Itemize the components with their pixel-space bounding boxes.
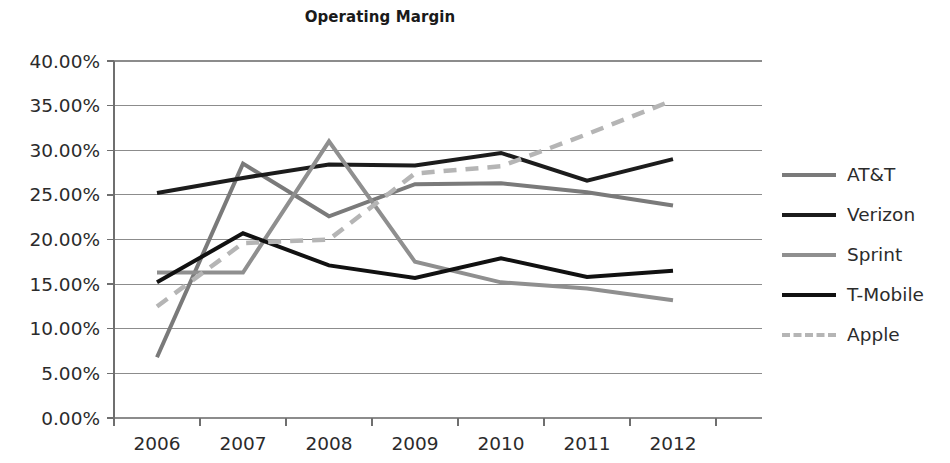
legend-item-t-mobile[interactable]: T-Mobile bbox=[782, 275, 950, 315]
series-group bbox=[157, 100, 673, 357]
legend-swatch-icon bbox=[782, 333, 836, 337]
x-tick-label: 2012 bbox=[649, 433, 696, 454]
y-tick-label: 30.00% bbox=[29, 140, 100, 161]
legend-item-apple[interactable]: Apple bbox=[782, 315, 950, 355]
legend-item-sprint[interactable]: Sprint bbox=[782, 235, 950, 275]
x-tick-label: 2011 bbox=[563, 433, 610, 454]
legend-swatch-icon bbox=[782, 253, 836, 257]
x-tick-label: 2009 bbox=[391, 433, 438, 454]
x-tick-label: 2008 bbox=[305, 433, 352, 454]
legend-swatch-icon bbox=[782, 173, 836, 177]
series-line-t-mobile bbox=[157, 233, 673, 282]
y-tick-label: 5.00% bbox=[41, 363, 100, 384]
legend-label: Sprint bbox=[847, 246, 902, 265]
legend-label: AT&T bbox=[847, 166, 895, 185]
legend-label: Verizon bbox=[847, 206, 915, 225]
chart-legend: AT&TVerizonSprintT-MobileApple bbox=[782, 155, 950, 355]
y-tick-label: 25.00% bbox=[29, 184, 100, 205]
legend-label: Apple bbox=[847, 326, 900, 345]
y-tick-label: 20.00% bbox=[29, 229, 100, 250]
y-tick-label: 40.00% bbox=[29, 51, 100, 72]
y-tick-labels-group: 40.00%35.00%30.00%25.00%20.00%15.00%10.0… bbox=[29, 51, 100, 429]
x-tick-label: 2006 bbox=[133, 433, 180, 454]
legend-item-verizon[interactable]: Verizon bbox=[782, 195, 950, 235]
y-tick-label: 15.00% bbox=[29, 274, 100, 295]
y-axis-group bbox=[107, 61, 114, 418]
y-tick-label: 10.00% bbox=[29, 318, 100, 339]
legend-swatch-icon bbox=[782, 293, 836, 297]
x-tick-label: 2007 bbox=[219, 433, 266, 454]
x-axis-group bbox=[114, 418, 716, 426]
y-tick-label: 0.00% bbox=[41, 408, 100, 429]
chart-container: Operating Margin 40.00%35.00%30.00%25.00… bbox=[0, 0, 950, 463]
legend-label: T-Mobile bbox=[847, 286, 924, 305]
x-tick-labels-group: 2006200720082009201020112012 bbox=[133, 433, 696, 454]
x-tick-label: 2010 bbox=[477, 433, 524, 454]
legend-swatch-icon bbox=[782, 213, 836, 217]
y-tick-label: 35.00% bbox=[29, 95, 100, 116]
legend-item-at-t[interactable]: AT&T bbox=[782, 155, 950, 195]
